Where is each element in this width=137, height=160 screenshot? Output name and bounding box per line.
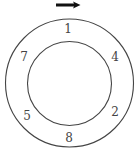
inner-ring: [28, 42, 112, 126]
ring-number-lower-left: 5: [23, 109, 31, 123]
ring-diagram: 1 4 2 8 5 7: [0, 0, 137, 160]
ring-number-upper-right: 4: [111, 50, 119, 64]
outer-ring: [6, 19, 134, 147]
ring-number-bottom: 8: [65, 131, 73, 145]
right-arrow-icon: [56, 2, 81, 9]
ring-number-upper-left: 7: [20, 50, 28, 64]
ring-number-lower-right: 2: [111, 105, 119, 119]
ring-number-top: 1: [64, 22, 72, 36]
